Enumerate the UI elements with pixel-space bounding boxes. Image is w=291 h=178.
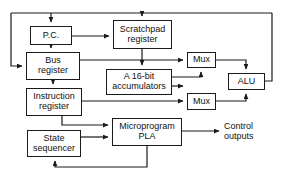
- block-label-accumulators: A 16-bit accumulators: [107, 72, 171, 91]
- block-microprogram_pla: Microprogram PLA: [112, 118, 182, 146]
- wire-mux-top-right-down-to-alu: [216, 60, 246, 69]
- block-mux_top: Mux: [187, 52, 216, 68]
- block-instruction_register: Instruction register: [26, 88, 82, 116]
- block-scratchpad_register: Scratchpad register: [113, 20, 172, 49]
- wire-alu-right-up-to-top-bus: [265, 13, 272, 81]
- block-label-mux_top: Mux: [188, 55, 215, 65]
- block-state_sequencer: State sequencer: [27, 130, 81, 157]
- block-label-microprogram_pla: Microprogram PLA: [113, 122, 181, 141]
- wire-bus-left-down-to-bus-register: [11, 13, 22, 66]
- block-label-alu: ALU: [229, 77, 264, 87]
- block-label-pc: P.C.: [31, 31, 71, 41]
- block-diagram: P.C.Bus registerInstruction registerStat…: [0, 0, 291, 178]
- label-control_outputs: Control outputs: [224, 121, 254, 141]
- block-bus_register: Bus register: [26, 52, 80, 80]
- block-label-mux_bottom: Mux: [188, 97, 215, 107]
- block-mux_bottom: Mux: [187, 93, 216, 110]
- block-label-bus_register: Bus register: [27, 56, 79, 75]
- block-label-state_sequencer: State sequencer: [28, 134, 80, 153]
- block-label-instruction_register: Instruction register: [27, 92, 81, 111]
- block-accumulators: A 16-bit accumulators: [106, 69, 172, 95]
- block-alu: ALU: [228, 73, 265, 90]
- wire-instruction-register-down-to-pla: [62, 116, 108, 125]
- wire-accumulators-right-up-to-mux-top: [172, 72, 201, 77]
- block-label-scratchpad_register: Scratchpad register: [114, 25, 171, 44]
- wire-mux-bottom-right-up-to-alu: [216, 94, 246, 101]
- block-pc: P.C.: [30, 26, 72, 45]
